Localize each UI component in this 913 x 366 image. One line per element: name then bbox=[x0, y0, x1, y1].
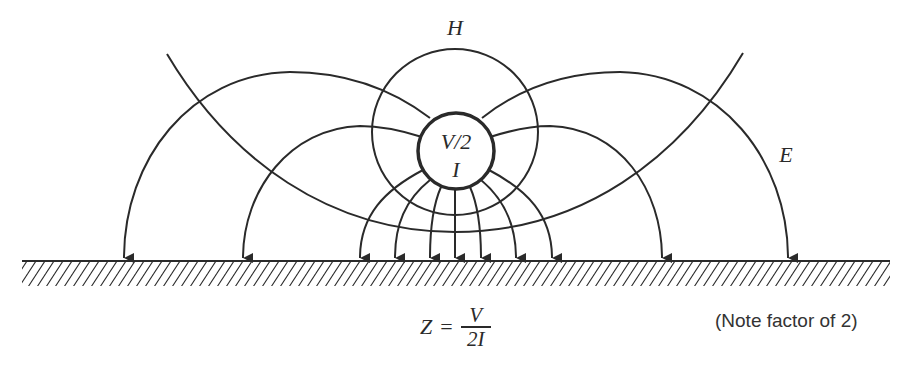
h-field-label: H bbox=[446, 15, 464, 40]
formula-numerator: V bbox=[467, 304, 484, 326]
formula-denominator: 2I bbox=[465, 328, 487, 350]
e-field-line-outer-right bbox=[482, 72, 788, 258]
e-field-line-1 bbox=[360, 170, 423, 258]
ground-plane bbox=[22, 261, 890, 286]
formula-fraction: V 2I bbox=[461, 304, 491, 350]
formula-lhs: Z bbox=[420, 314, 432, 340]
factor-note: (Note factor of 2) bbox=[715, 310, 858, 332]
e-field-line-3 bbox=[430, 187, 441, 258]
e-field-line-inner-left bbox=[243, 126, 422, 258]
e-field-line-5 bbox=[470, 187, 481, 258]
ground-hatching bbox=[22, 262, 890, 286]
e-field-label: E bbox=[778, 142, 793, 167]
e-field-line-inner-right bbox=[490, 126, 662, 258]
conductor-voltage-label: V/2 bbox=[441, 129, 472, 154]
impedance-formula: Z = V 2I bbox=[420, 304, 491, 350]
e-field-line-2 bbox=[395, 180, 430, 258]
formula-equals: = bbox=[440, 314, 452, 340]
e-field-line-6 bbox=[481, 180, 516, 258]
